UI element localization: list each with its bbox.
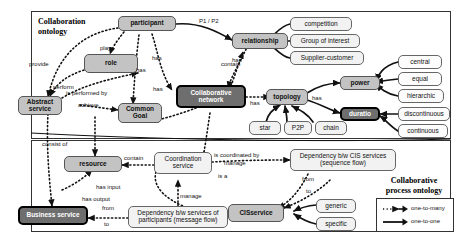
edge-label-from-right: from bbox=[302, 176, 314, 182]
edge-label-has-participant-goal: has bbox=[136, 67, 146, 73]
edge-label-to-left: to bbox=[104, 221, 109, 227]
node-label: equal bbox=[412, 76, 428, 83]
edge-label-to-right: to bbox=[306, 188, 311, 194]
node-label: Abstract service bbox=[27, 99, 53, 113]
edge-label-has-topology: has bbox=[250, 100, 260, 106]
node-discontinuous[interactable]: discontinuous bbox=[398, 107, 450, 121]
node-label: Coordination service bbox=[165, 156, 202, 170]
node-coordination-service[interactable]: Coordination service bbox=[154, 152, 212, 174]
node-generic[interactable]: generic bbox=[316, 199, 356, 213]
node-label: specific bbox=[325, 221, 347, 228]
title-line-1: Collaborative bbox=[372, 176, 456, 186]
edge-label-contain-relationship: contain bbox=[221, 61, 240, 67]
node-label: discontinuous bbox=[404, 111, 444, 118]
node-label: participant bbox=[130, 20, 163, 27]
node-abstract-service[interactable]: Abstract service bbox=[18, 96, 62, 115]
node-hierarchic[interactable]: hierarchic bbox=[398, 89, 444, 103]
edge-label-achieve: achieve bbox=[78, 102, 99, 108]
node-label: competition bbox=[304, 21, 337, 28]
node-label: hierarchic bbox=[407, 93, 435, 100]
node-label: star bbox=[260, 125, 271, 132]
collaboration-ontology-title: Collaboration ontology bbox=[38, 17, 128, 37]
node-competition[interactable]: competition bbox=[290, 17, 352, 31]
edge-label-is-a: is a bbox=[218, 173, 227, 179]
node-topology[interactable]: topology bbox=[266, 89, 308, 105]
node-label: CISservice bbox=[239, 210, 272, 217]
edge-label-has-network-goal: has bbox=[153, 86, 163, 92]
node-label: relationship bbox=[242, 38, 279, 45]
edge-label-has-power: has bbox=[312, 95, 322, 101]
node-label: Supplier-customer bbox=[301, 55, 354, 62]
node-group-of-interest[interactable]: Group of interest bbox=[290, 34, 360, 48]
node-supplier-customer[interactable]: Supplier-customer bbox=[290, 51, 364, 65]
node-chain[interactable]: chain bbox=[315, 121, 347, 135]
node-label: Common Goal bbox=[126, 106, 154, 120]
node-collaborative-network[interactable]: Collaborative network bbox=[176, 85, 246, 108]
node-label: Business service bbox=[26, 212, 79, 219]
node-label: Dependency b/w services of participants … bbox=[137, 210, 218, 224]
legend-label-one-to-many: one-to-many bbox=[411, 205, 445, 211]
edge-label-has-participant-network: has bbox=[152, 55, 162, 61]
node-cis-service[interactable]: CISservice bbox=[228, 204, 284, 222]
node-label: duratio bbox=[349, 111, 371, 118]
title-line-1: Collaboration bbox=[38, 17, 128, 27]
node-p2p[interactable]: P2P bbox=[284, 121, 312, 135]
edge-label-manage-left: manage bbox=[180, 193, 202, 199]
edge-label-is-coordinated-by: is coordinated by bbox=[214, 152, 259, 158]
node-central[interactable]: central bbox=[398, 55, 442, 69]
edge-label-p1-p2: P1 / P2 bbox=[199, 18, 219, 24]
node-label: power bbox=[350, 80, 369, 87]
edge-label-manage-right: manage bbox=[224, 160, 246, 166]
node-label: Collaborative network bbox=[190, 90, 231, 104]
node-common-goal[interactable]: Common Goal bbox=[118, 103, 162, 123]
node-label: continuous bbox=[407, 128, 438, 135]
legend-lines bbox=[377, 199, 453, 231]
edge-label-contain-resource: contain bbox=[124, 155, 143, 161]
edge-label-is-performed-by: is performed by bbox=[66, 90, 107, 96]
node-specific[interactable]: specific bbox=[316, 217, 356, 231]
node-dependency-cis[interactable]: Dependency b/w CIS services (sequence fl… bbox=[290, 149, 396, 171]
node-role[interactable]: role bbox=[84, 54, 138, 73]
node-continuous[interactable]: continuous bbox=[398, 124, 448, 138]
edge-label-play: play bbox=[100, 45, 111, 51]
node-label: Group of interest bbox=[301, 38, 349, 45]
edge-label-has-input: has input bbox=[96, 184, 120, 190]
node-label: resource bbox=[79, 161, 106, 168]
edge-label-has-output: has output bbox=[82, 196, 110, 202]
node-dependency-participants[interactable]: Dependency b/w services of participants … bbox=[128, 206, 228, 228]
node-label: generic bbox=[325, 203, 346, 210]
edge-label-provide: provide bbox=[29, 61, 49, 67]
node-business-service[interactable]: Business service bbox=[18, 206, 88, 225]
node-label: Dependency b/w CIS services (sequence fl… bbox=[300, 153, 387, 167]
node-resource[interactable]: resource bbox=[64, 156, 122, 172]
legend: one-to-many one-to-one bbox=[376, 198, 454, 232]
node-power[interactable]: power bbox=[340, 76, 380, 90]
legend-label-one-to-one: one-to-one bbox=[411, 218, 440, 224]
collaborative-process-ontology-title: Collaborative process ontology bbox=[372, 176, 456, 196]
node-label: central bbox=[410, 59, 430, 66]
node-relationship[interactable]: relationship bbox=[232, 33, 288, 49]
node-star[interactable]: star bbox=[249, 121, 281, 135]
node-label: role bbox=[105, 60, 117, 67]
edge-label-from-left: from bbox=[102, 205, 114, 211]
node-equal[interactable]: equal bbox=[398, 72, 442, 86]
node-label: P2P bbox=[292, 125, 304, 132]
node-label: chain bbox=[323, 125, 339, 132]
title-line-2: process ontology bbox=[372, 186, 456, 196]
diagram-canvas: participant role Abstract service Common… bbox=[0, 0, 458, 242]
node-label: topology bbox=[273, 94, 300, 101]
edge-label-consist-of: consist of bbox=[42, 141, 67, 147]
node-duratio[interactable]: duratio bbox=[340, 107, 380, 121]
title-line-2: ontology bbox=[38, 27, 128, 37]
